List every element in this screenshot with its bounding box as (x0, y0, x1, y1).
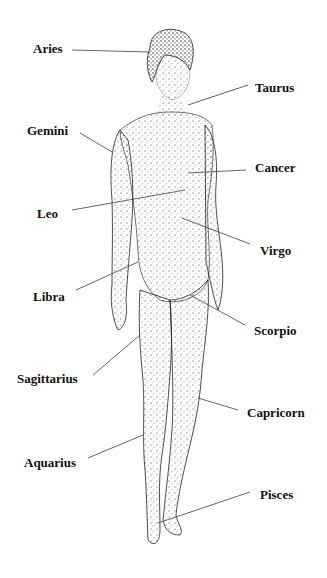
label-libra: Libra (33, 290, 65, 303)
label-taurus: Taurus (255, 81, 294, 94)
leader-line-libra (76, 262, 138, 290)
leader-line-sagittarius (93, 335, 140, 375)
label-capricorn: Capricorn (247, 406, 305, 419)
label-leo: Leo (37, 207, 58, 220)
leader-line-taurus (188, 85, 248, 105)
label-pisces: Pisces (260, 488, 293, 501)
label-virgo: Virgo (260, 244, 291, 257)
label-gemini: Gemini (27, 124, 68, 137)
label-aquarius: Aquarius (24, 456, 76, 469)
leader-line-capricorn (198, 398, 238, 410)
leader-line-aquarius (88, 435, 143, 458)
label-scorpio: Scorpio (254, 324, 297, 337)
figure-torso (120, 112, 213, 302)
leader-line-aries (72, 50, 150, 52)
leader-line-gemini (80, 133, 112, 152)
label-aries: Aries (33, 42, 63, 55)
label-sagittarius: Sagittarius (17, 372, 78, 385)
label-cancer: Cancer (255, 161, 295, 174)
zodiac-body-diagram: Aries Taurus Gemini Cancer Leo Virgo Lib… (0, 0, 327, 578)
figure-arm-left (111, 130, 133, 330)
